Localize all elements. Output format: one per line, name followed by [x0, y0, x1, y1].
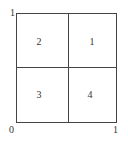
x-max-label: 1 [113, 125, 118, 135]
quadrant-2-label: 2 [29, 37, 49, 47]
y-max-label: 1 [10, 8, 15, 18]
quadrant-3-label: 3 [29, 90, 49, 100]
horizontal-divider [16, 67, 117, 68]
quadrant-4-label: 4 [80, 90, 100, 100]
quadrant-1-label: 1 [82, 37, 102, 47]
vertical-divider [68, 13, 69, 123]
unit-square-frame [16, 13, 117, 123]
origin-label: 0 [9, 125, 14, 135]
